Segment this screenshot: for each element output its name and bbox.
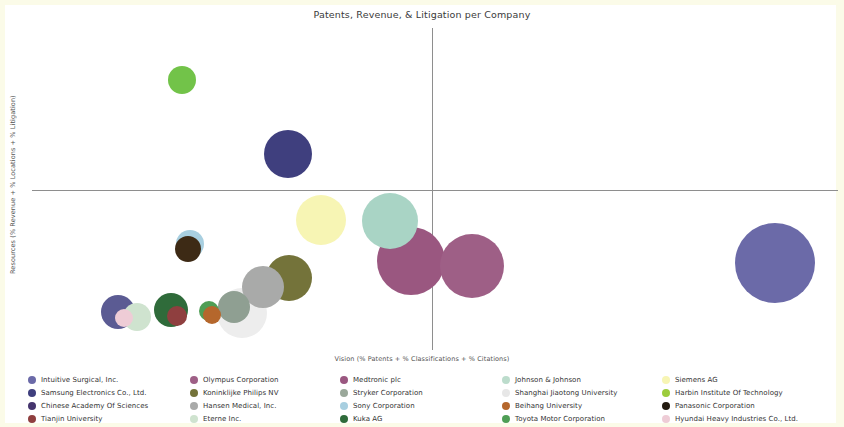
legend-item-label: Medtronic plc xyxy=(353,376,401,384)
legend-item[interactable]: Beihang University xyxy=(502,400,662,412)
legend-item[interactable]: Sony Corporation xyxy=(340,400,502,412)
legend-item-label: Sony Corporation xyxy=(353,402,415,410)
legend-item-label: Samsung Electronics Co., Ltd. xyxy=(41,389,147,397)
legend-item[interactable]: Panasonic Corporation xyxy=(662,400,840,412)
legend-item-label: Toyota Motor Corporation xyxy=(515,415,605,423)
legend-item[interactable]: Chinese Academy Of Sciences xyxy=(28,400,190,412)
legend-item-label: Hyundai Heavy Industries Co., Ltd. xyxy=(675,415,798,423)
x-axis-label: Vision (% Patents + % Classifications + … xyxy=(0,355,844,363)
legend-swatch-icon xyxy=(502,376,510,384)
legend-item[interactable]: Harbin Institute Of Technology xyxy=(662,387,840,399)
legend-item[interactable]: Olympus Corporation xyxy=(190,374,340,386)
legend-item-label: Koninklijke Philips NV xyxy=(203,389,279,397)
legend-item[interactable]: Medtronic plc xyxy=(340,374,502,386)
bubble-point xyxy=(362,193,418,249)
bubble-chart-page: Patents, Revenue, & Litigation per Compa… xyxy=(0,0,844,427)
legend-swatch-icon xyxy=(662,376,670,384)
bubble-point xyxy=(203,306,221,324)
bubble-point xyxy=(175,236,201,262)
plot-area xyxy=(32,28,838,350)
legend-item[interactable]: Stryker Corporation xyxy=(340,387,502,399)
legend-item[interactable]: Koninklijke Philips NV xyxy=(190,387,340,399)
legend-item[interactable]: Shanghai Jiaotong University xyxy=(502,387,662,399)
legend-item[interactable]: Toyota Motor Corporation xyxy=(502,413,662,425)
legend-item-label: Intuitive Surgical, Inc. xyxy=(41,376,118,384)
chart-title: Patents, Revenue, & Litigation per Compa… xyxy=(0,9,844,20)
legend-item-label: Beihang University xyxy=(515,402,582,410)
y-axis-label: Resources (% Revenue + % Locations + % L… xyxy=(9,104,17,274)
horizontal-axis-line xyxy=(32,190,838,191)
legend-column: Olympus CorporationKoninklijke Philips N… xyxy=(190,374,340,425)
legend-item-label: Chinese Academy Of Sciences xyxy=(41,402,148,410)
legend-swatch-icon xyxy=(340,376,348,384)
legend-item[interactable]: Eterne Inc. xyxy=(190,413,340,425)
legend-item-label: Stryker Corporation xyxy=(353,389,423,397)
legend-swatch-icon xyxy=(662,415,670,423)
legend-item-label: Hansen Medical, Inc. xyxy=(203,402,276,410)
legend-item[interactable]: Siemens AG xyxy=(662,374,840,386)
page-edge-top xyxy=(0,0,844,5)
legend-swatch-icon xyxy=(190,376,198,384)
legend-swatch-icon xyxy=(28,402,36,410)
legend-swatch-icon xyxy=(28,415,36,423)
legend-swatch-icon xyxy=(190,402,198,410)
legend-column: Medtronic plcStryker CorporationSony Cor… xyxy=(340,374,502,425)
legend-column: Johnson & JohnsonShanghai Jiaotong Unive… xyxy=(502,374,662,425)
vertical-axis-line xyxy=(432,28,433,350)
bubble-point xyxy=(296,195,346,245)
bubble-point xyxy=(735,223,815,303)
legend-item-label: Olympus Corporation xyxy=(203,376,278,384)
legend-item-label: Johnson & Johnson xyxy=(515,376,581,384)
legend-swatch-icon xyxy=(340,389,348,397)
bubble-point xyxy=(264,130,312,178)
legend-item-label: Eterne Inc. xyxy=(203,415,241,423)
legend-item-label: Harbin Institute Of Technology xyxy=(675,389,783,397)
legend-swatch-icon xyxy=(662,402,670,410)
legend-item[interactable]: Johnson & Johnson xyxy=(502,374,662,386)
legend-swatch-icon xyxy=(502,389,510,397)
legend-swatch-icon xyxy=(190,389,198,397)
chart-legend: Intuitive Surgical, Inc.Samsung Electron… xyxy=(28,374,840,425)
legend-item[interactable]: Hyundai Heavy Industries Co., Ltd. xyxy=(662,413,840,425)
legend-column: Intuitive Surgical, Inc.Samsung Electron… xyxy=(28,374,190,425)
legend-swatch-icon xyxy=(502,415,510,423)
legend-item[interactable]: Samsung Electronics Co., Ltd. xyxy=(28,387,190,399)
legend-swatch-icon xyxy=(340,415,348,423)
bubble-point xyxy=(115,309,133,327)
legend-item-label: Siemens AG xyxy=(675,376,718,384)
legend-item[interactable]: Intuitive Surgical, Inc. xyxy=(28,374,190,386)
legend-item[interactable]: Hansen Medical, Inc. xyxy=(190,400,340,412)
legend-swatch-icon xyxy=(340,402,348,410)
bubble-point xyxy=(218,291,250,323)
legend-item[interactable]: Kuka AG xyxy=(340,413,502,425)
legend-column: Siemens AGHarbin Institute Of Technology… xyxy=(662,374,840,425)
bubble-point xyxy=(167,306,187,326)
legend-swatch-icon xyxy=(190,415,198,423)
legend-item[interactable]: Tianjin University xyxy=(28,413,190,425)
bubble-point xyxy=(440,234,504,298)
legend-item-label: Shanghai Jiaotong University xyxy=(515,389,617,397)
legend-swatch-icon xyxy=(502,402,510,410)
legend-item-label: Tianjin University xyxy=(41,415,103,423)
legend-swatch-icon xyxy=(28,376,36,384)
legend-swatch-icon xyxy=(662,389,670,397)
bubble-point xyxy=(168,66,196,94)
legend-item-label: Kuka AG xyxy=(353,415,383,423)
legend-swatch-icon xyxy=(28,389,36,397)
legend-item-label: Panasonic Corporation xyxy=(675,402,755,410)
